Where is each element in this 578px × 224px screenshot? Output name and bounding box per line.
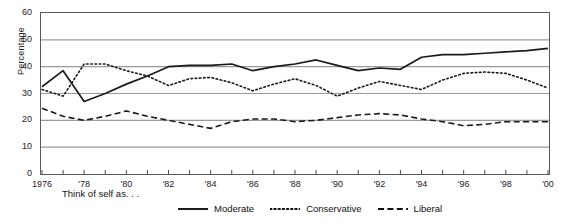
legend-swatch-dashed — [378, 204, 408, 213]
x-tick-label-1976: 1976 — [32, 179, 52, 189]
x-tick-label-1992: '92 — [373, 179, 385, 189]
chart-svg — [41, 13, 549, 174]
chart-container: Percentage 0102030405060 1976'78'80'82'8… — [0, 0, 578, 224]
plot-area — [40, 12, 550, 175]
x-tick-label-1988: '88 — [289, 179, 301, 189]
y-tick-label-40: 40 — [8, 61, 32, 71]
legend-label: Liberal — [414, 203, 443, 214]
x-tick-label-1994: '94 — [416, 179, 428, 189]
x-tick-label-2000: '00 — [542, 179, 554, 189]
legend-swatch-solid — [178, 204, 208, 213]
series-line-conservative — [42, 64, 548, 96]
legend-item-moderate: Moderate — [178, 203, 254, 214]
x-tick-label-1984: '84 — [205, 179, 217, 189]
y-tick-label-20: 20 — [8, 114, 32, 124]
legend-swatch-dotted — [270, 204, 300, 213]
legend-label: Conservative — [306, 203, 361, 214]
legend-label: Moderate — [214, 203, 254, 214]
y-tick-label-30: 30 — [8, 88, 32, 98]
y-tick-label-60: 60 — [8, 7, 32, 17]
chart-caption: Think of self as. . . — [62, 188, 139, 199]
y-tick-label-10: 10 — [8, 141, 32, 151]
x-tick-label-1986: '86 — [247, 179, 259, 189]
legend-item-liberal: Liberal — [378, 203, 443, 214]
y-tick-label-50: 50 — [8, 34, 32, 44]
chart-legend: ModerateConservativeLiberal — [178, 203, 442, 214]
x-tick-label-1990: '90 — [331, 179, 343, 189]
x-tick-label-1996: '96 — [458, 179, 470, 189]
legend-item-conservative: Conservative — [270, 203, 361, 214]
y-tick-label-0: 0 — [8, 168, 32, 178]
x-tick-label-1998: '98 — [500, 179, 512, 189]
series-line-liberal — [42, 108, 548, 128]
x-tick-label-1982: '82 — [163, 179, 175, 189]
